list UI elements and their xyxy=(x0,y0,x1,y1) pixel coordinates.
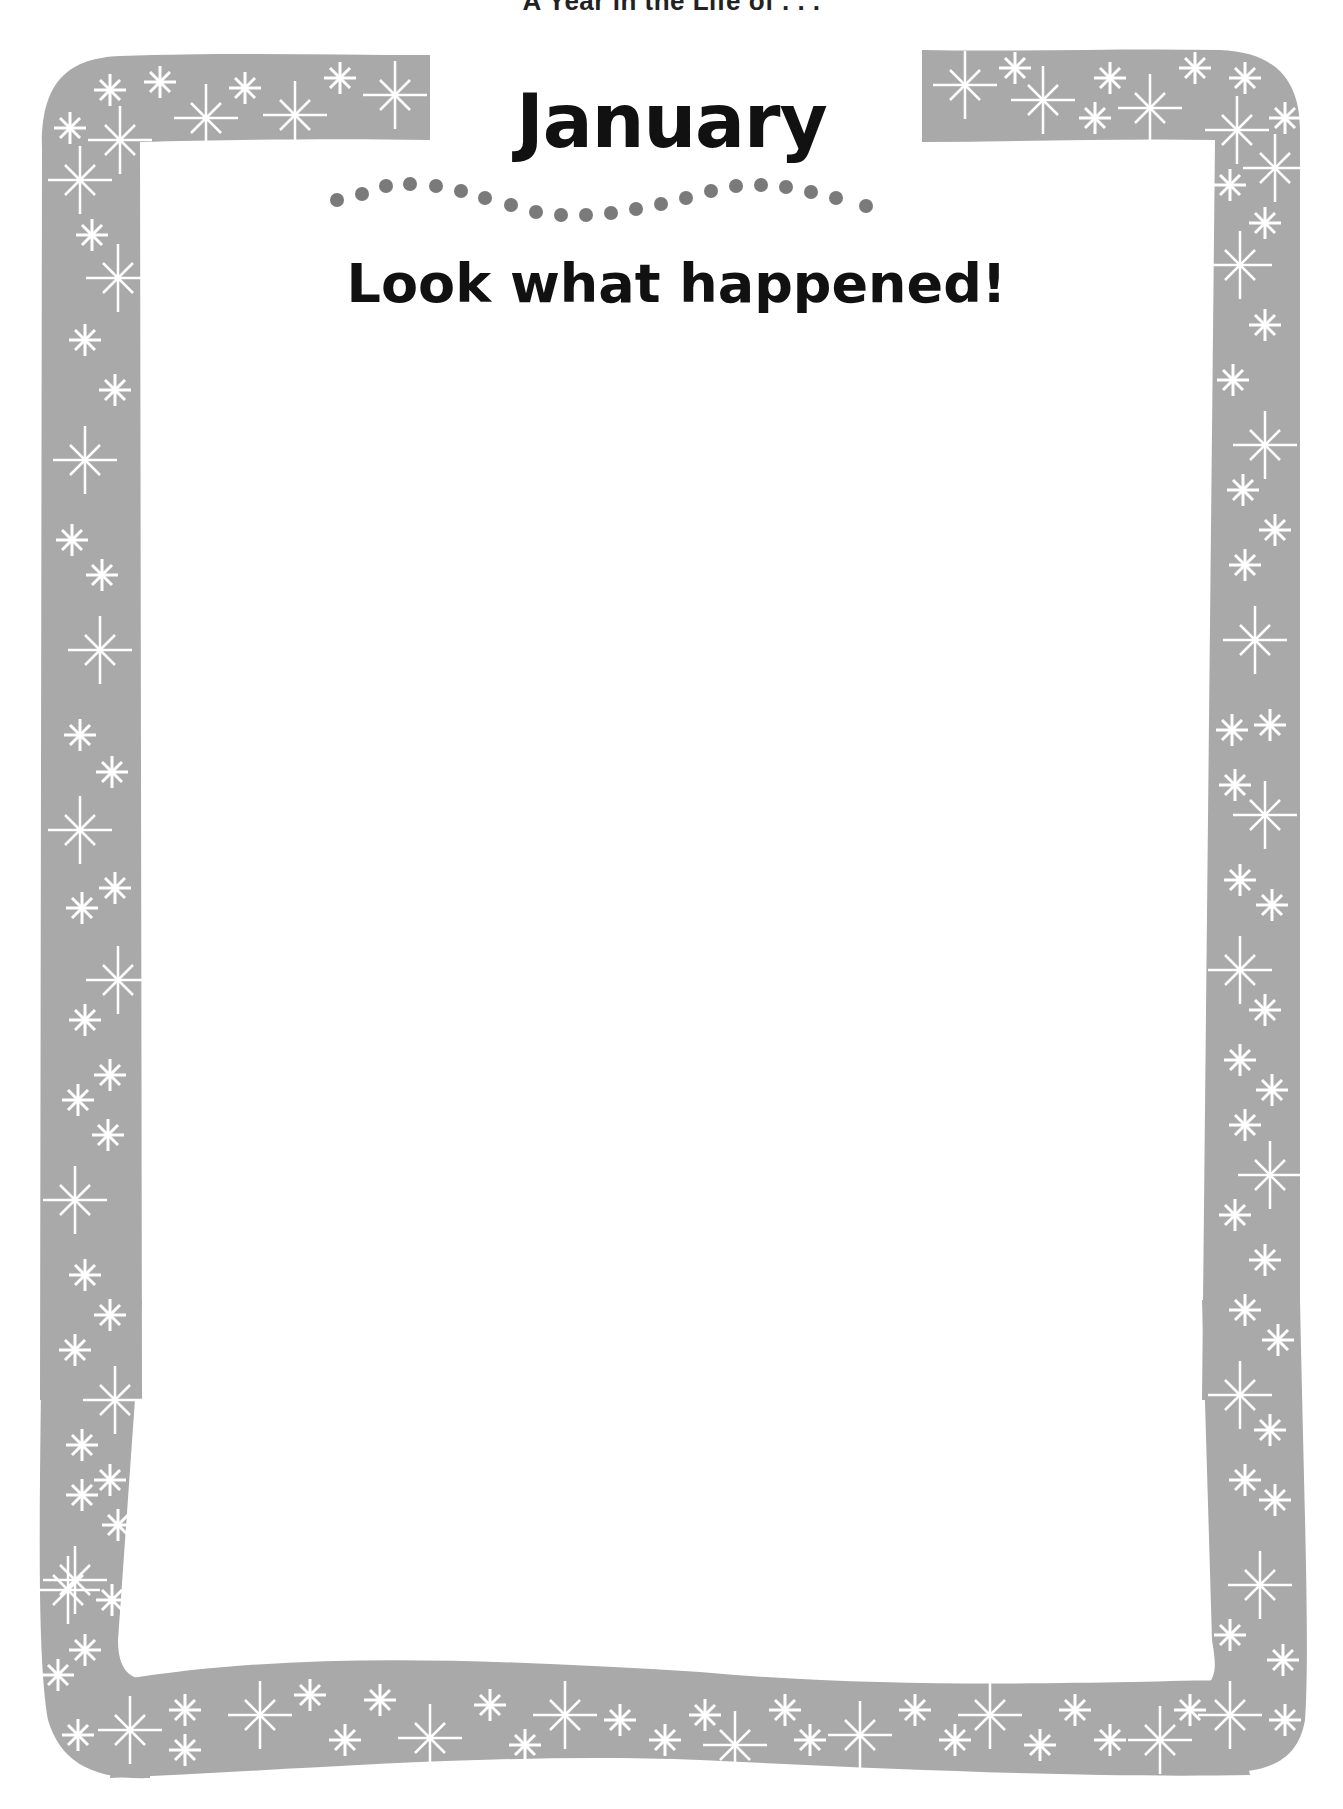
border-bottom xyxy=(110,1660,1250,1778)
blank-writing-area xyxy=(150,340,1190,1640)
dotted-divider xyxy=(330,177,873,222)
prompt-heading: Look what happened! xyxy=(0,252,1343,315)
month-title: January xyxy=(0,78,1343,164)
